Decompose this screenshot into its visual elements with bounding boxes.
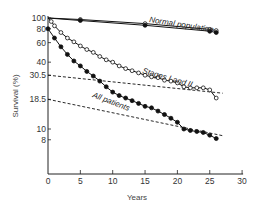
y-tick-label: 8 (41, 135, 46, 145)
y-tick-label: 80 (37, 24, 47, 34)
series-group (48, 18, 223, 139)
data-point (117, 64, 121, 68)
data-point (150, 106, 154, 110)
data-point (214, 31, 218, 35)
data-point (214, 96, 218, 100)
series-label-normal: Normal population (149, 15, 215, 34)
data-point (91, 74, 95, 78)
data-point (91, 50, 95, 54)
series-line (48, 75, 223, 93)
series-label-all: All patients (90, 90, 131, 113)
y-tick-label: 10 (37, 124, 47, 134)
data-point (72, 59, 76, 63)
data-point (130, 99, 134, 103)
x-tick-label: 25 (205, 176, 215, 186)
data-point (104, 58, 108, 62)
data-point (78, 18, 82, 22)
x-tick-label: 10 (108, 176, 118, 186)
data-point (111, 90, 115, 94)
markers-group (46, 18, 218, 141)
data-point (85, 48, 89, 52)
data-point (195, 129, 199, 133)
x-tick-label: 0 (46, 176, 51, 186)
x-tick-label: 5 (78, 176, 83, 186)
data-point (137, 71, 141, 75)
data-point (104, 85, 108, 89)
data-point (169, 116, 173, 120)
y-tick-label: 18.5 (29, 94, 46, 104)
data-point (143, 23, 147, 27)
data-point (182, 127, 186, 131)
data-point (52, 36, 56, 40)
data-point (214, 137, 218, 141)
data-point (66, 36, 70, 40)
data-point (124, 96, 128, 100)
data-point (78, 44, 82, 48)
data-point (59, 31, 63, 35)
data-point (137, 101, 141, 105)
data-point (208, 133, 212, 137)
y-tick-label: 30.5 (29, 70, 46, 80)
data-point (72, 40, 76, 44)
y-tick-label: 40 (37, 57, 47, 67)
data-point (208, 88, 212, 92)
x-axis-title: Years (127, 193, 147, 202)
data-point (201, 130, 205, 134)
x-tick-label: 20 (173, 176, 183, 186)
y-tick-label: 100 (32, 13, 46, 23)
data-point (162, 113, 166, 117)
x-tick-label: 15 (140, 176, 150, 186)
data-point (175, 120, 179, 124)
data-point (130, 69, 134, 73)
data-point (49, 20, 53, 24)
data-point (124, 67, 128, 71)
data-point (78, 64, 82, 68)
data-point (195, 86, 199, 90)
survival-chart: 05101520253010080604030.518.5108 Normal … (0, 0, 260, 211)
data-point (53, 24, 57, 28)
data-point (188, 128, 192, 132)
data-point (85, 69, 89, 73)
data-point (143, 104, 147, 108)
data-point (98, 55, 102, 59)
data-point (46, 27, 50, 31)
data-point (111, 60, 115, 64)
data-point (117, 94, 121, 98)
x-tick-label: 30 (237, 176, 247, 186)
data-point (59, 45, 63, 49)
data-point (156, 109, 160, 113)
data-point (65, 52, 69, 56)
y-axis-title: Survival (%) (11, 74, 20, 117)
data-point (201, 86, 205, 90)
data-point (98, 79, 102, 83)
y-tick-label: 60 (37, 38, 47, 48)
